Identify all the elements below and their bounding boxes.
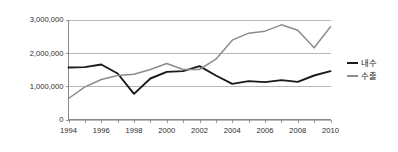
x-tick-label: 2002 bbox=[191, 126, 208, 135]
x-tick-label: 2010 bbox=[322, 126, 339, 135]
y-tick-label: 2,000,000 bbox=[30, 49, 64, 58]
y-tick-label: 3,000,000 bbox=[30, 15, 64, 24]
y-tick-label: 1,000,000 bbox=[30, 82, 64, 91]
legend-label-domestic: 내수 bbox=[361, 58, 377, 68]
legend-label-export: 수출 bbox=[361, 71, 377, 81]
line-chart: 01,000,0002,000,0003,000,000 19941996199… bbox=[0, 0, 398, 152]
x-tick-label: 1998 bbox=[126, 126, 143, 135]
chart-canvas: 01,000,0002,000,0003,000,000 19941996199… bbox=[0, 0, 398, 152]
x-tick-label: 2006 bbox=[257, 126, 274, 135]
x-axis-tick-labels: 199419961998200020022004200620082010 bbox=[60, 126, 339, 135]
x-tick-label: 1996 bbox=[93, 126, 110, 135]
y-tick-label: 0 bbox=[59, 115, 63, 124]
x-tick-label: 2008 bbox=[289, 126, 306, 135]
x-tick-label: 2000 bbox=[158, 126, 175, 135]
x-tick-label: 1994 bbox=[60, 126, 77, 135]
x-tick-label: 2004 bbox=[224, 126, 241, 135]
